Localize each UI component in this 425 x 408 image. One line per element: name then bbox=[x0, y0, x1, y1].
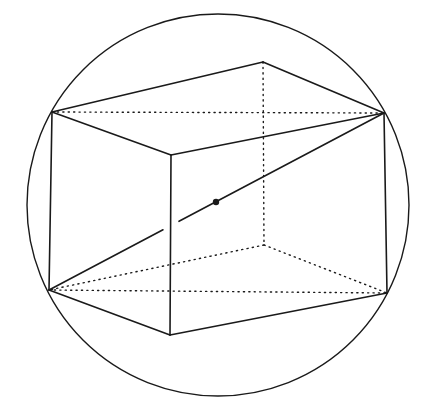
visible-edge bbox=[49, 112, 52, 290]
hidden-edge bbox=[263, 62, 264, 245]
hidden-edge bbox=[49, 290, 387, 293]
center-point bbox=[213, 199, 219, 205]
hidden-edge bbox=[264, 245, 387, 293]
diagonal-segment bbox=[179, 113, 384, 221]
visible-edge bbox=[384, 113, 387, 293]
visible-edge bbox=[49, 290, 170, 335]
hidden-edges bbox=[49, 62, 387, 293]
diagram-canvas bbox=[0, 0, 425, 408]
visible-edge bbox=[170, 155, 171, 335]
visible-edges bbox=[49, 62, 387, 335]
hidden-edge bbox=[52, 112, 384, 113]
visible-edge bbox=[170, 293, 387, 335]
prism-in-sphere-diagram bbox=[0, 0, 425, 408]
sphere-outline bbox=[27, 14, 409, 396]
diagonal-segment bbox=[49, 230, 163, 290]
visible-edge bbox=[171, 113, 384, 155]
hidden-edge bbox=[49, 245, 264, 290]
visible-edge bbox=[263, 62, 384, 113]
visible-edge bbox=[52, 112, 171, 155]
